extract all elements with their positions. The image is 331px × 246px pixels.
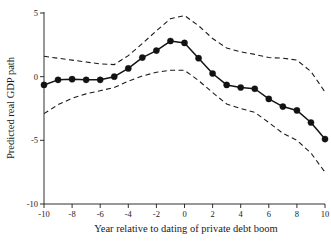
- data-point-marker: [125, 65, 131, 71]
- data-point-marker: [69, 76, 75, 82]
- main-series-path: [44, 41, 325, 139]
- data-point-marker: [111, 74, 117, 80]
- y-axis-title: Predicted real GDP path: [5, 56, 16, 159]
- x-tick-label: -6: [97, 209, 104, 219]
- x-tick-label: -8: [69, 209, 76, 219]
- data-point-marker: [266, 96, 272, 102]
- data-point-marker: [224, 82, 230, 88]
- x-tick-label: 8: [295, 209, 299, 219]
- x-axis-ticks: -10-8-6-4-20246810: [38, 204, 329, 219]
- data-point-marker: [294, 107, 300, 113]
- data-point-marker: [238, 84, 244, 90]
- predicted-gdp-series-line: [44, 41, 325, 139]
- data-point-marker: [41, 82, 47, 88]
- x-tick-label: -4: [125, 209, 133, 219]
- x-tick-label: 0: [182, 209, 186, 219]
- data-point-marker: [139, 54, 145, 60]
- lower-band-path: [44, 70, 325, 172]
- data-point-marker: [308, 119, 314, 125]
- x-tick-label: -10: [38, 209, 49, 219]
- data-point-marker: [210, 70, 216, 76]
- data-point-marker: [322, 136, 328, 142]
- confidence-band-lower: [44, 70, 325, 172]
- data-point-marker: [97, 77, 103, 83]
- x-axis-title: Year relative to dating of private debt …: [94, 223, 278, 234]
- data-point-marker: [195, 55, 201, 61]
- predicted-gdp-series-markers: [41, 38, 328, 142]
- y-tick-label: -10: [27, 199, 38, 209]
- x-tick-label: 2: [210, 209, 214, 219]
- data-point-marker: [55, 77, 61, 83]
- data-point-marker: [252, 86, 258, 92]
- y-axis-ticks: 50-5-10: [27, 8, 44, 209]
- data-point-marker: [83, 77, 89, 83]
- x-tick-label: -2: [153, 209, 160, 219]
- data-point-marker: [167, 38, 173, 44]
- data-point-marker: [181, 40, 187, 46]
- chart-figure: 50-5-10 -10-8-6-4-20246810 Predicted rea…: [0, 0, 331, 246]
- y-tick-label: -5: [31, 135, 38, 145]
- y-tick-label: 0: [34, 72, 38, 82]
- data-point-marker: [153, 47, 159, 53]
- x-tick-label: 4: [239, 209, 244, 219]
- data-point-marker: [280, 103, 286, 109]
- y-tick-label: 5: [34, 8, 38, 18]
- chart-canvas: 50-5-10 -10-8-6-4-20246810 Predicted rea…: [0, 0, 331, 246]
- x-tick-label: 6: [267, 209, 271, 219]
- x-tick-label: 10: [321, 209, 330, 219]
